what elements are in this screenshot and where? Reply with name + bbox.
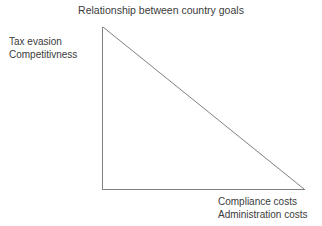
y-axis-label-line-1: Tax evasion [9,35,77,48]
diagram-canvas: Relationship between country goals Tax e… [0,0,322,226]
y-axis-label-line-2: Competitivness [9,48,77,61]
x-axis-label: Compliance costs Administration costs [218,195,307,221]
y-axis-label: Tax evasion Competitivness [9,35,77,61]
triangle-diagram [0,0,322,226]
x-axis-label-line-2: Administration costs [218,208,307,221]
x-axis-label-line-1: Compliance costs [218,195,307,208]
tradeoff-diagonal-line [103,27,304,189]
